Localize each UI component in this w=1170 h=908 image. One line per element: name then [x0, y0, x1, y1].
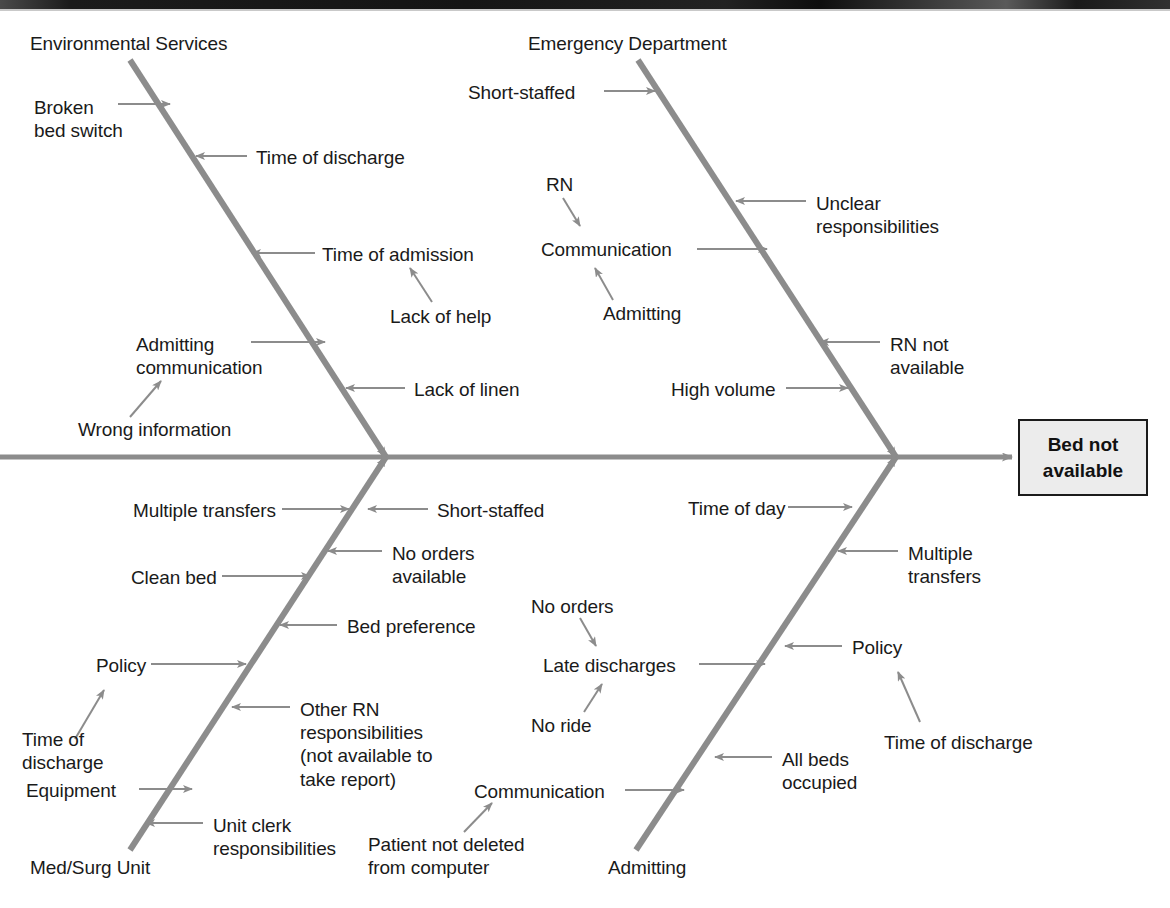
cause-time-of-discharge-env: Time of discharge [256, 146, 405, 169]
cause-all-beds-occupied: All beds occupied [782, 748, 857, 794]
cause-bed-preference: Bed preference [347, 615, 476, 638]
cause-short-staffed-ms: Short-staffed [437, 499, 544, 522]
cause-high-volume: High volume [671, 378, 776, 401]
cause-rn-not-available: RN not available [890, 333, 964, 379]
subcause-no-ride: No ride [531, 714, 592, 737]
cause-other-rn-responsibilities: Other RN responsibilities (not available… [300, 698, 432, 791]
cause-communication-ad: Communication [474, 780, 605, 803]
category-label-environmental-services: Environmental Services [30, 32, 227, 55]
cause-communication-ed: Communication [541, 238, 672, 261]
effect-label: Bed not available [1043, 432, 1123, 483]
arrow-no-ride [584, 684, 602, 712]
cause-unit-clerk-responsibilities: Unit clerk responsibilities [213, 814, 336, 860]
cause-clean-bed: Clean bed [131, 566, 217, 589]
fishbone-diagram-page: Environmental Services Emergency Departm… [0, 0, 1170, 908]
fishbone-skeleton [0, 0, 1170, 908]
subcause-wrong-information: Wrong information [78, 418, 231, 441]
subcause-time-of-discharge-ms: Time of discharge [22, 728, 103, 774]
subcause-admitting-ed: Admitting [603, 302, 681, 325]
cause-late-discharges: Late discharges [543, 654, 676, 677]
arrow-patient-not-deleted [464, 803, 492, 832]
subcause-time-of-discharge-ad: Time of discharge [884, 731, 1033, 754]
arrow-rn-sub [563, 198, 580, 226]
cause-multiple-transfers-ms: Multiple transfers [133, 499, 276, 522]
cause-policy-ad: Policy [852, 636, 902, 659]
cause-admitting-communication: Admitting communication [136, 333, 262, 379]
subcause-no-orders-ad: No orders [531, 595, 614, 618]
cause-policy-ms: Policy [96, 654, 146, 677]
subcause-lack-of-help: Lack of help [390, 305, 491, 328]
subcause-patient-not-deleted: Patient not deleted from computer [368, 833, 525, 879]
arrow-time-of-discharge-ad [898, 672, 920, 722]
cause-no-orders-available: No orders available [392, 542, 475, 588]
cause-unclear-responsibilities: Unclear responsibilities [816, 192, 939, 238]
arrow-lack-of-help [410, 268, 432, 302]
category-label-med-surg-unit: Med/Surg Unit [30, 856, 150, 879]
cause-time-of-day: Time of day [688, 497, 785, 520]
cause-time-of-admission: Time of admission [322, 243, 474, 266]
arrow-admitting-sub-ed [595, 268, 613, 300]
category-label-admitting: Admitting [608, 856, 686, 879]
arrow-wrong-information [130, 381, 161, 417]
cause-multiple-transfers-ad: Multiple transfers [908, 542, 981, 588]
arrow-no-orders-ad [580, 618, 596, 646]
cause-lack-of-linen: Lack of linen [414, 378, 519, 401]
cause-broken-bed-switch: Broken bed switch [34, 96, 123, 142]
subcause-rn: RN [546, 173, 573, 196]
effect-box: Bed not available [1018, 419, 1148, 496]
category-label-emergency-department: Emergency Department [528, 32, 727, 55]
cause-equipment: Equipment [26, 779, 116, 802]
cause-short-staffed-ed: Short-staffed [468, 81, 575, 104]
